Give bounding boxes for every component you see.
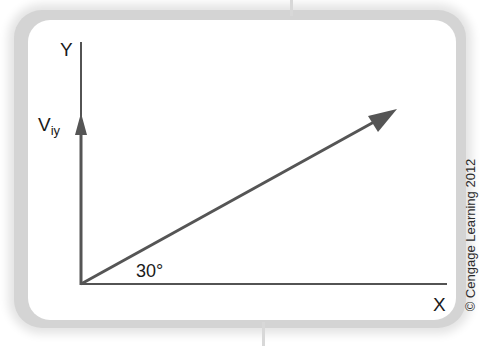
- angle-label: 30°: [136, 262, 163, 280]
- velocity-arrowhead-icon: [368, 109, 397, 132]
- viy-label: Viy: [38, 115, 60, 137]
- viy-arrowhead-icon: [75, 113, 87, 135]
- x-axis-label: X: [433, 295, 446, 314]
- velocity-vector-shaft: [81, 117, 383, 284]
- y-axis-label: Y: [60, 40, 73, 59]
- copyright-notice: © Cengage Learning 2012: [463, 159, 478, 312]
- viy-label-main: V: [38, 114, 51, 135]
- viy-label-subscript: iy: [51, 123, 60, 138]
- vector-diagram: [0, 0, 499, 346]
